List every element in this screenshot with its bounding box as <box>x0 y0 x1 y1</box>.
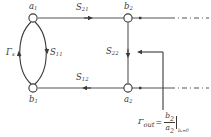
node-b1 <box>29 84 37 92</box>
condition-label: bₛ=0 <box>178 128 188 134</box>
figure-canvas: a1 b1 b2 a2 Γs S11 S21 S12 S22 Γout = b2… <box>0 0 211 137</box>
b2-over-a2-fraction: b2 a2 <box>164 112 175 134</box>
branch-label-gamma-s: Γs <box>6 48 15 58</box>
branch-label-s22: S22 <box>106 47 119 57</box>
fraction-denominator: a2 <box>164 124 174 134</box>
branch-label-s21: S21 <box>76 3 89 13</box>
termination-bottom <box>132 87 209 89</box>
node-b2 <box>124 14 132 22</box>
node-a2 <box>124 84 132 92</box>
gamma-out-symbol: Γout <box>138 117 155 129</box>
gamma-out-callout-leader <box>139 52 163 110</box>
evaluation-bar <box>176 116 177 129</box>
node-label-a1: a1 <box>29 2 37 12</box>
node-label-b2: b2 <box>124 2 133 12</box>
fraction-numerator: b2 <box>164 112 175 122</box>
branch-label-s12: S12 <box>76 73 89 83</box>
gamma-out-formula: Γout = b2 a2 bₛ=0 <box>138 112 189 134</box>
node-label-b1: b1 <box>29 95 38 105</box>
equals-sign: = <box>156 118 163 127</box>
branch-label-s11: S11 <box>50 48 63 58</box>
node-a1 <box>29 14 37 22</box>
branch-gamma-s <box>19 22 31 84</box>
termination-top <box>132 17 209 19</box>
node-label-a2: a2 <box>124 95 132 105</box>
branch-s11 <box>35 22 47 84</box>
